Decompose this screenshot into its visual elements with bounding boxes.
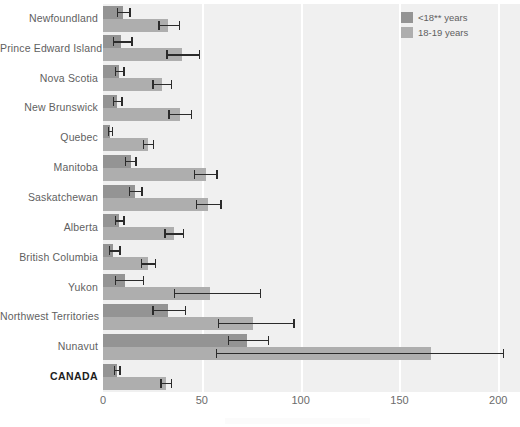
error-cap-high <box>153 140 154 149</box>
error-line <box>115 280 145 281</box>
x-tick-label-150: 150 <box>390 394 408 406</box>
error-bar-age1819-8 <box>141 259 157 268</box>
error-cap-high <box>123 216 124 225</box>
category-label-nunavut: Nunavut <box>0 340 98 352</box>
error-bar-age1819-2 <box>152 80 172 89</box>
error-line <box>196 204 222 205</box>
error-bar-age1819-12 <box>160 379 172 388</box>
error-line <box>174 293 261 294</box>
error-cap-high <box>171 80 172 89</box>
category-label-prince-edward-island: Prince Edward Island <box>0 42 98 54</box>
plot-area <box>103 4 520 392</box>
error-cap-high <box>143 276 144 285</box>
bar-chart: NewfoundlandPrince Edward IslandNova Sco… <box>0 0 520 427</box>
error-cap-high <box>503 349 504 358</box>
category-label-nova-scotia: Nova Scotia <box>0 72 98 84</box>
category-label-yukon: Yukon <box>0 281 98 293</box>
error-bar-under18-9 <box>115 276 145 285</box>
error-cap-high <box>220 200 221 209</box>
error-bar-under18-1 <box>113 37 133 46</box>
error-line <box>166 54 200 55</box>
legend-label-1: 18-19 years <box>418 27 468 38</box>
category-axis-labels: NewfoundlandPrince Edward IslandNova Sco… <box>0 4 98 392</box>
error-cap-high <box>121 97 122 106</box>
gridline-200 <box>498 4 500 392</box>
category-label-newfoundland: Newfoundland <box>0 12 98 24</box>
error-bar-under18-8 <box>109 246 121 255</box>
error-cap-high <box>135 157 136 166</box>
error-cap-high <box>268 336 269 345</box>
legend-item-1: 18-19 years <box>401 27 506 38</box>
error-line <box>164 233 184 234</box>
error-bar-under18-6 <box>129 187 143 196</box>
category-label-quebec: Quebec <box>0 131 98 143</box>
gridline-100 <box>301 4 303 392</box>
error-cap-high <box>119 366 120 375</box>
category-label-manitoba: Manitoba <box>0 161 98 173</box>
x-tick-label-200: 200 <box>489 394 507 406</box>
error-bar-under18-7 <box>115 216 125 225</box>
legend-item-0: <18** years <box>401 12 506 23</box>
bar-age1819-6 <box>103 198 208 211</box>
error-cap-high <box>191 110 192 119</box>
x-tick-label-0: 0 <box>100 394 106 406</box>
error-bar-under18-2 <box>115 67 125 76</box>
error-bar-age1819-5 <box>194 170 218 179</box>
error-cap-high <box>260 289 261 298</box>
category-label-northwest-territories: Northwest Territories <box>0 310 98 322</box>
legend-swatch-icon-0 <box>401 12 413 23</box>
error-bar-age1819-6 <box>196 200 222 209</box>
bar-age1819-12 <box>103 377 166 390</box>
error-bar-age1819-11 <box>216 349 505 358</box>
error-line <box>141 263 157 264</box>
error-cap-high <box>131 37 132 46</box>
error-cap-high <box>129 8 130 17</box>
error-bar-age1819-9 <box>174 289 261 298</box>
category-label-new-brunswick: New Brunswick <box>0 101 98 113</box>
category-label-british-columbia: British Columbia <box>0 251 98 263</box>
bar-age1819-5 <box>103 168 206 181</box>
error-line <box>216 353 505 354</box>
error-line <box>218 323 295 324</box>
legend-label-0: <18** years <box>418 12 467 23</box>
error-cap-high <box>119 246 120 255</box>
error-line <box>194 174 218 175</box>
legend: <18** years18-19 years <box>401 12 506 42</box>
error-bar-age1819-0 <box>158 21 180 30</box>
bar-under18-11 <box>103 334 247 347</box>
error-line <box>228 340 270 341</box>
error-line <box>152 84 172 85</box>
error-cap-high <box>185 306 186 315</box>
error-cap-high <box>141 187 142 196</box>
error-cap-high <box>293 319 294 328</box>
error-bar-under18-10 <box>152 306 186 315</box>
error-cap-high <box>123 67 124 76</box>
error-cap-high <box>216 170 217 179</box>
category-label-saskatchewan: Saskatchewan <box>0 191 98 203</box>
category-label-alberta: Alberta <box>0 221 98 233</box>
error-cap-high <box>183 229 184 238</box>
bottom-edge-artifact <box>225 418 370 424</box>
error-line <box>113 41 133 42</box>
legend-swatch-icon-1 <box>401 27 413 38</box>
error-line <box>158 25 180 26</box>
error-line <box>152 310 186 311</box>
category-label-canada: CANADA <box>0 370 98 382</box>
error-bar-under18-0 <box>117 8 131 17</box>
error-bar-age1819-7 <box>164 229 184 238</box>
error-bar-age1819-10 <box>218 319 295 328</box>
error-bar-under18-5 <box>125 157 137 166</box>
x-tick-label-100: 100 <box>291 394 309 406</box>
error-cap-high <box>179 21 180 30</box>
error-cap-high <box>112 127 113 136</box>
x-tick-label-50: 50 <box>196 394 208 406</box>
error-cap-high <box>155 259 156 268</box>
error-cap-high <box>199 50 200 59</box>
error-line <box>168 114 192 115</box>
error-bar-under18-11 <box>228 336 270 345</box>
error-bar-under18-12 <box>114 366 121 375</box>
x-axis: 050100150200 <box>103 392 520 414</box>
error-bar-age1819-1 <box>166 50 200 59</box>
error-cap-high <box>171 379 172 388</box>
error-bar-under18-4 <box>108 127 113 136</box>
